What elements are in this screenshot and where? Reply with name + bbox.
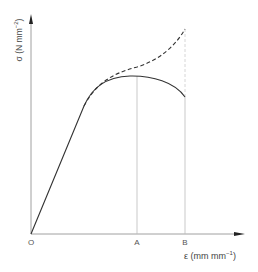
y-axis-label: σ (N mm−2) (13, 19, 24, 62)
x-axis-arrow-icon (234, 232, 245, 236)
y-axis-unit: (N mm (14, 28, 24, 54)
tick-label-b: B (182, 239, 187, 247)
engineering-stress-curve (31, 76, 185, 234)
x-axis-unit-exponent: −1 (226, 250, 233, 256)
y-axis-unit-close: ) (14, 19, 24, 22)
y-axis-arrow-icon (29, 14, 33, 24)
y-axis-unit-exponent: −2 (13, 21, 19, 28)
x-axis-unit-close: ) (233, 251, 236, 261)
stress-strain-diagram (0, 0, 258, 272)
x-axis-unit: (mm mm (191, 251, 227, 261)
x-axis-symbol: ε (184, 251, 188, 261)
x-axis-label: ε (mm mm−1) (184, 250, 236, 261)
y-axis-symbol: σ (14, 56, 24, 61)
true-stress-curve (84, 29, 185, 106)
origin-label: O (28, 239, 34, 247)
tick-label-a: A (134, 239, 139, 247)
